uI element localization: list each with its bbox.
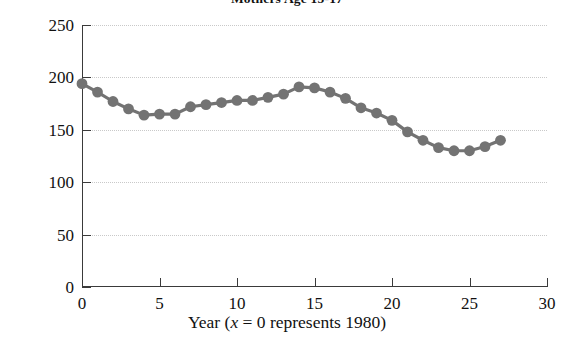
data-point xyxy=(247,95,258,106)
data-point xyxy=(356,102,367,113)
data-point xyxy=(309,82,320,93)
y-tick-label: 250 xyxy=(18,17,74,34)
plot-area xyxy=(82,25,547,287)
x-axis-title-before: Year ( xyxy=(188,312,230,332)
data-point xyxy=(340,93,351,104)
data-point xyxy=(139,110,150,121)
x-tick-label: 0 xyxy=(62,295,102,312)
data-point xyxy=(216,97,227,108)
data-point xyxy=(123,103,134,114)
x-axis-title-after: = 0 represents 1980) xyxy=(238,312,386,332)
data-point xyxy=(170,109,181,120)
x-tick-label: 25 xyxy=(450,295,490,312)
data-point xyxy=(278,89,289,100)
y-tick-label: 150 xyxy=(18,122,74,139)
data-point xyxy=(371,108,382,119)
y-tick-label: 100 xyxy=(18,174,74,191)
y-tick-label: 50 xyxy=(18,227,74,244)
data-point xyxy=(92,87,103,98)
data-point xyxy=(294,81,305,92)
data-point xyxy=(232,95,243,106)
chart-figure: Mothers Age 15-17 050100150200250 051015… xyxy=(0,0,574,343)
x-tick-label: 30 xyxy=(527,295,567,312)
x-tick-label: 5 xyxy=(140,295,180,312)
data-point xyxy=(77,78,88,89)
data-point xyxy=(449,145,460,156)
data-point xyxy=(108,96,119,107)
x-tick-label: 20 xyxy=(372,295,412,312)
x-tick-label: 10 xyxy=(217,295,257,312)
x-axis-title-variable: x xyxy=(230,312,238,332)
x-axis-title: Year (x = 0 represents 1980) xyxy=(0,312,574,333)
data-point xyxy=(495,135,506,146)
data-point xyxy=(387,115,398,126)
data-series xyxy=(82,25,547,287)
data-point xyxy=(464,145,475,156)
chart-title: Mothers Age 15-17 xyxy=(0,0,574,7)
data-point xyxy=(185,101,196,112)
y-axis-title: Births (1000s) xyxy=(0,0,15,42)
data-point xyxy=(325,87,336,98)
x-tick xyxy=(547,278,548,287)
y-tick-label: 200 xyxy=(18,69,74,86)
data-point xyxy=(263,92,274,103)
data-point xyxy=(154,109,165,120)
y-tick xyxy=(82,287,91,288)
x-tick-label: 15 xyxy=(295,295,335,312)
data-point xyxy=(418,135,429,146)
y-tick-label: 0 xyxy=(18,279,74,296)
data-point xyxy=(402,127,413,138)
data-point xyxy=(480,141,491,152)
data-point xyxy=(433,142,444,153)
data-point xyxy=(201,99,212,110)
